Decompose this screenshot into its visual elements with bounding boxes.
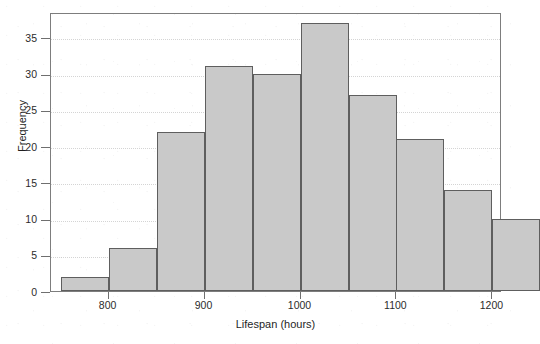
y-axis-tick-mark [41,75,50,76]
plot-area [50,13,501,292]
y-axis-tick-mark [41,183,50,184]
y-axis-tick-label: 20 [0,142,37,153]
x-axis-tick-label: 1200 [461,300,521,311]
y-axis-tick-mark [41,292,50,293]
x-axis-tick-label: 900 [174,300,234,311]
histogram-bar [253,74,301,291]
y-axis-tick-label: 15 [0,178,37,189]
x-axis-tick-mark [300,292,301,299]
x-axis-tick-mark [491,292,492,299]
bars-layer [51,14,500,291]
histogram-bar [61,277,109,292]
y-axis-tick-mark [41,220,50,221]
histogram-bar [349,95,397,291]
y-axis-title: Frequency [16,86,28,166]
histogram-bar [396,139,444,291]
y-axis-tick-label: 0 [0,287,37,298]
histogram-bar [301,23,349,291]
histogram-bar [109,248,157,292]
figure-title [0,0,515,1]
y-axis-tick-label: 30 [0,69,37,80]
x-axis-tick-label: 1100 [365,300,425,311]
y-axis-tick-label: 25 [0,105,37,116]
histogram-bar [205,66,253,291]
x-axis-tick-mark [108,292,109,299]
y-axis-tick-label: 35 [0,33,37,44]
histogram-bar [444,190,492,292]
y-axis-tick-mark [41,111,50,112]
y-axis-tick-label: 5 [0,250,37,261]
x-axis-title: Lifespan (hours) [50,318,501,330]
y-axis-tick-mark [41,147,50,148]
histogram-bar [157,132,205,291]
y-axis-tick-mark [41,38,50,39]
x-axis-tick-label: 800 [78,300,138,311]
x-axis-tick-mark [204,292,205,299]
y-axis-tick-mark [41,256,50,257]
histogram-bar [492,219,540,292]
x-axis-tick-label: 1000 [270,300,330,311]
y-axis-tick-label: 10 [0,214,37,225]
x-axis-tick-mark [395,292,396,299]
